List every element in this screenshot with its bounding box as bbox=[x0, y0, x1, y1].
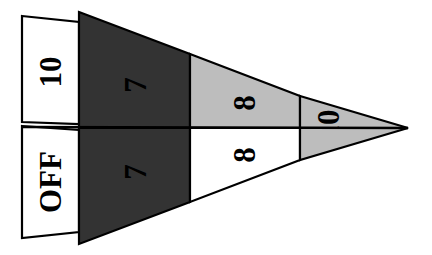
upper-segment-2: 7 bbox=[79, 12, 190, 128]
lower-segment-2: 7 bbox=[79, 128, 190, 244]
lower-segment-1: OFF bbox=[22, 126, 79, 238]
lower-segment-4-shape bbox=[300, 128, 408, 160]
lower-segment-2-label: 7 bbox=[118, 164, 153, 180]
center-divider bbox=[22, 127, 408, 128]
upper-segment-3: 8 bbox=[190, 54, 300, 128]
upper-segment-2-label: 7 bbox=[118, 77, 153, 93]
lower-segment-3-shape bbox=[190, 128, 300, 202]
lower-segment-4 bbox=[300, 128, 408, 160]
lower-segment-3: 8 bbox=[190, 128, 300, 202]
upper-segment-1: 10 bbox=[22, 16, 79, 124]
wedge-svg: 10 7 8 10 OFF 7 8 bbox=[0, 0, 432, 255]
lower-segment-1-label: OFF bbox=[33, 151, 68, 213]
lower-segment-2-shape bbox=[79, 128, 190, 244]
wedge-diagram: 10 7 8 10 OFF 7 8 bbox=[0, 0, 432, 255]
lower-segment-3-label: 8 bbox=[227, 147, 262, 163]
upper-segment-3-label: 8 bbox=[227, 95, 262, 111]
upper-segment-3-shape bbox=[190, 54, 300, 128]
upper-segment-2-shape bbox=[79, 12, 190, 128]
upper-segment-1-label: 10 bbox=[33, 57, 68, 88]
